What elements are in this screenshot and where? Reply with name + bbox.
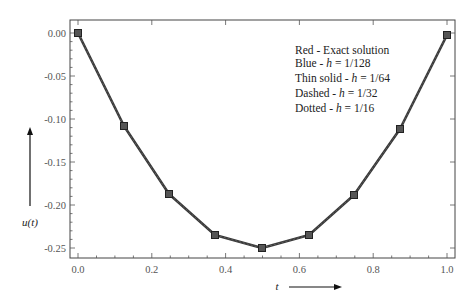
y-tick-label: -0.10 xyxy=(44,114,66,125)
chart: 0.00 -0.05 -0.10 -0.15 -0.20 -0.25 0.0 0… xyxy=(0,0,474,302)
square-marker-icon xyxy=(212,232,219,239)
legend-h64: Thin solid - h = 1/64 xyxy=(295,72,390,84)
y-tick-label: 0.00 xyxy=(48,28,66,39)
x-arrowhead-icon xyxy=(334,284,342,290)
x-tick-label: 1.0 xyxy=(440,264,453,275)
square-marker-icon xyxy=(121,123,128,130)
y-axis-label: u(t) xyxy=(22,216,38,229)
square-marker-icon xyxy=(397,126,404,133)
square-marker-icon xyxy=(351,192,358,199)
square-marker-icon xyxy=(166,191,173,198)
x-tick-label: 0.8 xyxy=(367,264,380,275)
legend: Red - Exact solution Blue - h = 1/128 Th… xyxy=(295,44,390,114)
square-marker-icon xyxy=(259,245,266,252)
x-tick-label: 0.0 xyxy=(71,264,84,275)
y-tick-label: -0.15 xyxy=(44,157,66,168)
y-tick-label: -0.05 xyxy=(44,71,66,82)
square-marker-icon xyxy=(75,30,82,37)
data-markers xyxy=(75,30,451,252)
legend-h32: Dashed - h = 1/32 xyxy=(295,87,378,99)
x-tick-label: 0.2 xyxy=(145,264,158,275)
square-marker-icon xyxy=(306,232,313,239)
x-tick-label: 0.4 xyxy=(219,264,233,275)
square-marker-icon xyxy=(444,32,451,39)
legend-h16: Dotted - h = 1/16 xyxy=(295,102,375,114)
legend-h128: Blue - h = 1/128 xyxy=(295,57,371,69)
y-tick-label: -0.25 xyxy=(44,243,66,254)
legend-exact: Red - Exact solution xyxy=(295,44,389,56)
y-axis xyxy=(70,33,455,248)
x-axis-label: t xyxy=(275,280,279,292)
y-arrowhead-icon xyxy=(27,127,33,135)
x-tick-label: 0.6 xyxy=(293,264,306,275)
plot-frame xyxy=(70,20,455,258)
y-tick-label: -0.20 xyxy=(44,200,66,211)
